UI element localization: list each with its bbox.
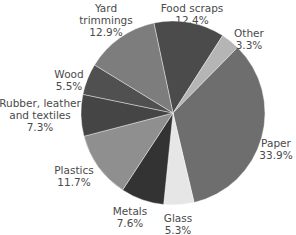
label-wood: Wood 5.5% <box>54 68 83 92</box>
label-food-scraps: Food scraps 12.4% <box>161 2 224 26</box>
label-rubber-leather-textiles: Rubber, leather and textiles 7.3% <box>0 97 81 133</box>
label-yard-trimmings: Yard trimmings 12.9% <box>79 2 133 38</box>
label-metals: Metals 7.6% <box>113 205 147 229</box>
label-paper: Paper 33.9% <box>259 137 292 161</box>
label-other: Other 3.3% <box>234 27 264 51</box>
label-glass: Glass 5.3% <box>164 212 192 235</box>
label-plastics: Plastics 11.7% <box>54 164 93 188</box>
